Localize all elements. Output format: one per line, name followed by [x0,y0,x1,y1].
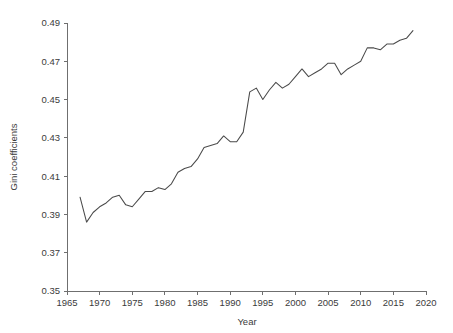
x-tick-label: 2005 [318,297,339,308]
x-tick-label: 1985 [187,297,208,308]
x-tick-label: 1980 [154,297,175,308]
gini-coefficient-line-chart: 0.350.370.390.410.430.450.470.49 1965197… [0,0,453,333]
y-tick-label: 0.47 [42,56,61,67]
x-tick-label: 1965 [56,297,77,308]
y-tick-label: 0.41 [42,171,61,182]
x-tick-label: 2020 [415,297,436,308]
x-tick-label: 1975 [122,297,143,308]
x-tick-label: 1970 [89,297,110,308]
y-tick-label: 0.49 [42,17,61,28]
y-tick-label: 0.37 [42,247,61,258]
y-tick-label: 0.39 [42,209,61,220]
x-axis-title: Year [237,316,256,327]
chart-figure: 0.350.370.390.410.430.450.470.49 1965197… [0,0,453,333]
y-tick-label: 0.43 [42,132,61,143]
x-tick-label: 2010 [350,297,371,308]
x-tick-label: 2000 [285,297,306,308]
x-tick-label: 1995 [252,297,273,308]
y-tick-label: 0.45 [42,94,61,105]
x-tick-label: 2015 [383,297,404,308]
plot-background [0,0,453,333]
x-tick-label: 1990 [220,297,241,308]
y-tick-label: 0.35 [42,285,61,296]
y-axis-title: Gini coefficients [8,123,19,190]
